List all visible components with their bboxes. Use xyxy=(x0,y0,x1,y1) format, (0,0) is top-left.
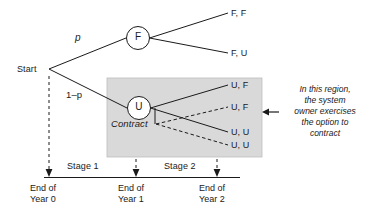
tick-year1-arrow-icon xyxy=(133,169,140,177)
decision-tree-figure: Start p 1–p F U Contract F, F F, U U, F … xyxy=(0,0,371,211)
timeline-tick-label-year2: End of Year 2 xyxy=(199,183,225,205)
outcome-label-uu-solid: U, U xyxy=(231,127,249,137)
contract-region-annotation: In this region, the system owner exercis… xyxy=(282,84,368,139)
outcome-label-fu: F, U xyxy=(231,48,247,58)
probability-up-label: p xyxy=(75,33,81,43)
node-f-label: F xyxy=(131,32,145,42)
branch-start-to-f xyxy=(49,38,126,69)
start-dropline-arrow-icon xyxy=(46,169,53,177)
timeline-tick-label-year1: End of Year 1 xyxy=(118,183,144,205)
outcome-label-ff: F, F xyxy=(231,8,246,18)
branch-f-to-fu xyxy=(150,38,229,53)
branch-f-to-ff xyxy=(150,13,229,38)
stage-2-label: Stage 2 xyxy=(164,161,196,171)
node-u-label: U xyxy=(132,102,146,112)
outcome-label-uu-dashed: U, U xyxy=(231,140,249,150)
stage-1-label: Stage 1 xyxy=(67,161,99,171)
tick-year2-arrow-icon xyxy=(214,169,221,177)
annotation-arrow-head-icon xyxy=(262,109,269,116)
start-label: Start xyxy=(17,64,37,74)
outcome-label-uf-dashed: U, F xyxy=(231,102,248,112)
contract-label: Contract xyxy=(111,119,148,129)
probability-down-label: 1–p xyxy=(66,90,82,100)
timeline-tick-label-year0: End of Year 0 xyxy=(30,183,56,205)
outcome-label-uf-solid: U, F xyxy=(231,80,248,90)
